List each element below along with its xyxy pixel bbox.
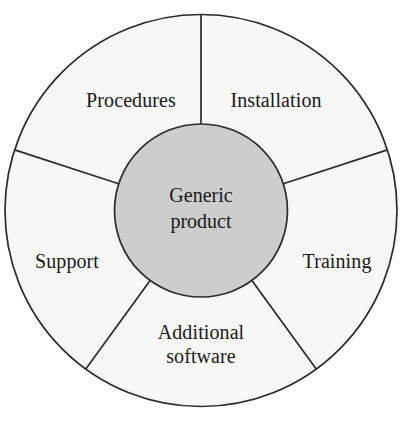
segment-label-procedures: Procedures — [86, 89, 176, 113]
segment-label-additional-software-line2: software — [166, 345, 236, 367]
segment-label-installation: Installation — [230, 89, 321, 113]
hub-label: Generic product — [169, 183, 232, 234]
hub-label-line1: Generic — [169, 183, 232, 209]
segment-label-training: Training — [303, 250, 372, 274]
segment-label-additional-software: Additional software — [158, 321, 245, 368]
hub-label-line2: product — [169, 209, 232, 235]
segment-label-support: Support — [35, 250, 99, 274]
diagram-canvas: Generic product Procedures Installation … — [0, 0, 404, 422]
segment-label-additional-software-line1: Additional — [158, 321, 245, 343]
